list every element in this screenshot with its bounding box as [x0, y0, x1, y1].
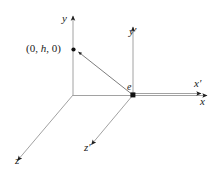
- coordinate-system-figure: y y′ x′ x z′ z e (0, h, 0): [0, 0, 220, 172]
- axis-line-z: [18, 95, 74, 161]
- target-point-label-suffix: , 0): [46, 42, 61, 54]
- eye-point-marker: [130, 92, 135, 97]
- target-point-label-prefix: (0,: [26, 42, 41, 54]
- target-point-label: (0, h, 0): [26, 43, 61, 54]
- axis-label-x: x: [200, 96, 205, 107]
- axis-line-z-prime: [92, 95, 134, 145]
- eye-point-label: e: [127, 82, 131, 92]
- target-point-marker: [71, 47, 75, 51]
- axis-label-z: z: [15, 155, 19, 166]
- axis-label-x-prime: x′: [194, 78, 201, 89]
- axis-label-y: y: [62, 13, 67, 24]
- ray-eye-to-target: [79, 52, 132, 94]
- axis-label-z-prime: z′: [84, 142, 91, 153]
- figure-canvas: [0, 0, 220, 172]
- axis-label-y-prime: y′: [129, 26, 136, 37]
